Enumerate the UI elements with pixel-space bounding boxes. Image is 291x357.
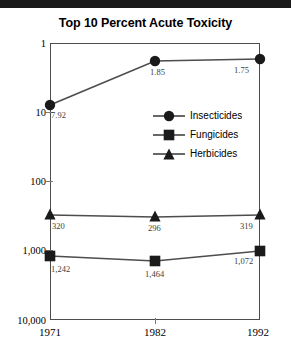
point-value-label: 296 xyxy=(148,223,161,233)
chart-figure: Top 10 Percent Acute Toxicity 1 10 100 1… xyxy=(0,0,291,357)
data-point-herbicides xyxy=(254,209,265,220)
chart-legend: Insecticides Fungicides Herbicides xyxy=(152,106,256,163)
data-point-insecticides xyxy=(255,54,265,64)
point-value-label: 1,464 xyxy=(145,269,164,279)
legend-label: Fungicides xyxy=(186,129,238,140)
point-value-label: 7.92 xyxy=(51,110,66,120)
legend-item-insecticides: Insecticides xyxy=(152,106,256,125)
circle-marker-icon xyxy=(152,108,186,124)
point-value-label: 1.85 xyxy=(150,67,165,77)
point-value-label: 320 xyxy=(52,221,65,231)
x-tick-label: 1971 xyxy=(39,326,61,338)
point-value-label: 1,242 xyxy=(51,264,70,274)
data-point-insecticides xyxy=(150,56,160,66)
square-marker-icon xyxy=(152,127,186,143)
data-point-herbicides xyxy=(149,211,160,222)
data-point-fungicides xyxy=(150,256,161,267)
data-point-herbicides xyxy=(44,209,55,220)
legend-label: Herbicides xyxy=(186,148,237,159)
legend-item-fungicides: Fungicides xyxy=(152,125,256,144)
data-point-fungicides xyxy=(255,246,266,257)
triangle-marker-icon xyxy=(152,146,186,162)
legend-label: Insecticides xyxy=(186,110,242,121)
data-point-fungicides xyxy=(45,251,56,262)
x-tick-label: 1982 xyxy=(144,326,166,338)
x-axis: 1971 1982 1992 xyxy=(0,324,291,348)
data-point-insecticides xyxy=(45,100,55,110)
point-value-label: 319 xyxy=(240,221,253,231)
x-tick-label: 1992 xyxy=(247,326,269,338)
x-tick-mark xyxy=(155,318,156,324)
legend-item-herbicides: Herbicides xyxy=(152,144,256,163)
point-value-label: 1.75 xyxy=(234,65,249,75)
point-value-label: 1,072 xyxy=(234,256,253,266)
data-series-layer xyxy=(0,0,291,357)
